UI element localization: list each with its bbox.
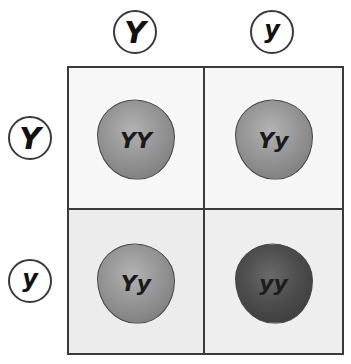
genotype-label: yy (259, 271, 288, 296)
pea-icon: Yy (97, 243, 175, 323)
cell-Yy-top: Yy (205, 68, 342, 210)
left-allele-y: y (8, 259, 52, 303)
cell-Yy-bottom: Yy (69, 210, 205, 353)
genotype-label: Yy (121, 271, 151, 296)
pea-icon: Yy (235, 100, 313, 180)
genotype-label: YY (120, 127, 152, 152)
punnett-square: YY Yy Yy yy (67, 66, 344, 355)
left-allele-Y: Y (8, 116, 52, 160)
cell-yy: yy (205, 210, 342, 353)
top-allele-y: y (250, 10, 294, 54)
pea-icon: yy (235, 243, 313, 323)
cell-YY: YY (69, 68, 205, 210)
top-allele-Y: Y (113, 10, 157, 54)
genotype-label: Yy (258, 127, 288, 152)
pea-icon: YY (97, 100, 175, 180)
